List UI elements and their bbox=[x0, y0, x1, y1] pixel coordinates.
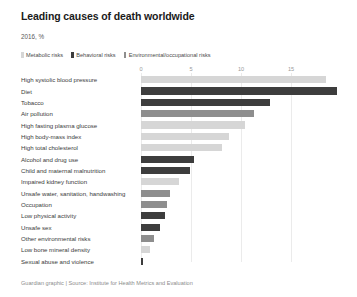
bar-row[interactable]: Other environmental risks bbox=[21, 233, 349, 244]
bar-behavioral[interactable] bbox=[141, 156, 194, 163]
chart-legend: Metabolic risksBehavioral risksEnvironme… bbox=[21, 51, 349, 59]
bar-row[interactable]: High body-mass index bbox=[21, 131, 349, 142]
bar-row[interactable]: Air pollution bbox=[21, 108, 349, 119]
bar-metabolic[interactable] bbox=[141, 121, 245, 128]
bar-track bbox=[141, 153, 349, 164]
bar-behavioral[interactable] bbox=[141, 87, 337, 94]
bar-track bbox=[141, 165, 349, 176]
bar-track bbox=[141, 97, 349, 108]
bar-row[interactable]: Low physical activity bbox=[21, 210, 349, 221]
bar-track bbox=[141, 221, 349, 232]
bar-row-label: Unsafe sex bbox=[21, 224, 141, 231]
bar-row[interactable]: Occupation bbox=[21, 199, 349, 210]
bar-row-label: Other environmental risks bbox=[21, 235, 141, 242]
bar-row[interactable]: Tobacco bbox=[21, 97, 349, 108]
bar-row[interactable]: Low bone mineral density bbox=[21, 244, 349, 255]
bar-metabolic[interactable] bbox=[141, 246, 150, 253]
legend-item-label: Environmental/occupational risks bbox=[129, 52, 211, 58]
legend-item-behavioral[interactable]: Behavioral risks bbox=[71, 52, 116, 58]
bar-track bbox=[141, 108, 349, 119]
bar-behavioral[interactable] bbox=[141, 258, 143, 265]
bar-row-label: High body-mass index bbox=[21, 133, 141, 140]
bar-row[interactable]: Impaired kidney function bbox=[21, 176, 349, 187]
bar-track bbox=[141, 131, 349, 142]
bar-track bbox=[141, 199, 349, 210]
bar-metabolic[interactable] bbox=[141, 144, 222, 151]
bar-environmental[interactable] bbox=[141, 201, 167, 208]
bar-behavioral[interactable] bbox=[141, 212, 165, 219]
bar-row[interactable]: Child and maternal malnutrition bbox=[21, 165, 349, 176]
bar-metabolic[interactable] bbox=[141, 133, 229, 140]
bar-track bbox=[141, 74, 349, 85]
bar-row-label: High fasting plasma glucose bbox=[21, 122, 141, 129]
bar-row[interactable]: High fasting plasma glucose bbox=[21, 119, 349, 130]
chart-subtitle: 2016, % bbox=[21, 33, 349, 41]
bar-row[interactable]: Unsafe sex bbox=[21, 221, 349, 232]
bar-metabolic[interactable] bbox=[141, 178, 179, 185]
legend-swatch-icon bbox=[71, 52, 74, 58]
bar-environmental[interactable] bbox=[141, 110, 254, 117]
bar-environmental[interactable] bbox=[141, 235, 154, 242]
bar-row-label: Alcohol and drug use bbox=[21, 156, 141, 163]
bar-row-label: Low bone mineral density bbox=[21, 246, 141, 253]
bar-behavioral[interactable] bbox=[141, 224, 160, 231]
bar-row-label: Unsafe water, sanitation, handwashing bbox=[21, 190, 141, 197]
bar-row[interactable]: High systolic blood pressure bbox=[21, 74, 349, 85]
x-tick-label: 0 bbox=[139, 66, 142, 73]
x-tick-label: 10 bbox=[238, 66, 244, 73]
legend-item-label: Metabolic risks bbox=[26, 52, 63, 58]
bar-behavioral[interactable] bbox=[141, 167, 190, 174]
bar-rows: High systolic blood pressureDietTobaccoA… bbox=[21, 74, 349, 267]
plot-area: 051015 High systolic blood pressureDietT… bbox=[21, 66, 349, 262]
bar-environmental[interactable] bbox=[141, 190, 170, 197]
bar-track bbox=[141, 233, 349, 244]
bar-row[interactable]: Diet bbox=[21, 85, 349, 96]
bar-row-label: Child and maternal malnutrition bbox=[21, 167, 141, 174]
bar-row-label: Occupation bbox=[21, 201, 141, 208]
bar-track bbox=[141, 176, 349, 187]
bar-track bbox=[141, 210, 349, 221]
bar-row-label: High total cholesterol bbox=[21, 144, 141, 151]
bar-track bbox=[141, 244, 349, 255]
bar-row[interactable]: High total cholesterol bbox=[21, 142, 349, 153]
bar-row-label: Tobacco bbox=[21, 99, 141, 106]
legend-item-label: Behavioral risks bbox=[76, 52, 115, 58]
bar-behavioral[interactable] bbox=[141, 99, 270, 106]
bar-track bbox=[141, 119, 349, 130]
bar-row-label: High systolic blood pressure bbox=[21, 76, 141, 83]
page-title: Leading causes of death worldwide bbox=[21, 10, 349, 22]
legend-swatch-icon bbox=[21, 52, 24, 58]
bar-track bbox=[141, 187, 349, 198]
bar-row-label: Sexual abuse and violence bbox=[21, 258, 141, 265]
chart-card: Leading causes of death worldwide 2016, … bbox=[0, 0, 357, 297]
legend-item-environmental[interactable]: Environmental/occupational risks bbox=[124, 52, 211, 58]
bar-row[interactable]: Unsafe water, sanitation, handwashing bbox=[21, 187, 349, 198]
bar-track bbox=[141, 142, 349, 153]
x-tick-label: 15 bbox=[288, 66, 294, 73]
bar-row-label: Low physical activity bbox=[21, 212, 141, 219]
bar-track bbox=[141, 85, 349, 96]
source-credit: Guardian graphic | Source: Institute for… bbox=[21, 279, 193, 287]
bar-row-label: Air pollution bbox=[21, 110, 141, 117]
legend-swatch-icon bbox=[124, 52, 127, 58]
bar-row-label: Impaired kidney function bbox=[21, 178, 141, 185]
bar-track bbox=[141, 256, 349, 267]
bar-metabolic[interactable] bbox=[141, 76, 326, 83]
legend-item-metabolic[interactable]: Metabolic risks bbox=[21, 52, 63, 58]
bar-row[interactable]: Sexual abuse and violence bbox=[21, 256, 349, 267]
bar-row-label: Diet bbox=[21, 88, 141, 95]
bar-row[interactable]: Alcohol and drug use bbox=[21, 153, 349, 164]
x-tick-label: 5 bbox=[189, 66, 192, 73]
